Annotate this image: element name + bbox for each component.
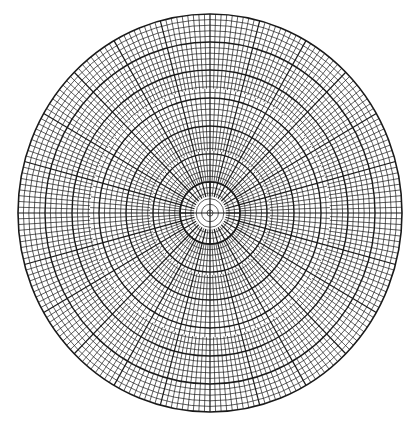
polar-grid bbox=[0, 0, 417, 430]
